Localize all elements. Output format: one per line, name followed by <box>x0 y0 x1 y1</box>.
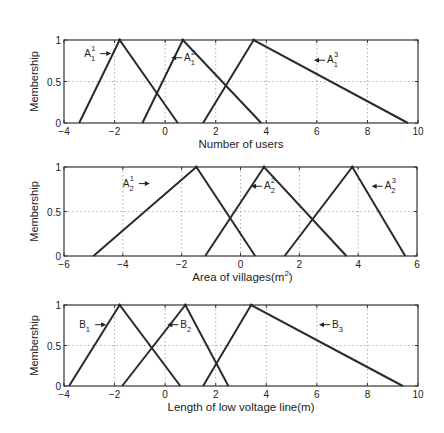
svg-text:4: 4 <box>264 389 270 400</box>
arrow-icon <box>319 322 330 327</box>
svg-text:B3: B3 <box>332 319 343 334</box>
svg-text:6: 6 <box>314 126 320 137</box>
svg-text:0: 0 <box>55 118 61 129</box>
series-label: A13 <box>314 50 338 69</box>
svg-text:4: 4 <box>355 259 361 270</box>
svg-text:−2: −2 <box>109 389 121 400</box>
grid-lines <box>64 305 418 386</box>
svg-text:0: 0 <box>162 389 168 400</box>
svg-text:0: 0 <box>238 259 244 270</box>
series-label: A23 <box>372 176 396 195</box>
svg-text:2: 2 <box>297 259 303 270</box>
svg-text:1: 1 <box>55 35 61 46</box>
x-axis-label: Length of low voltage line(m) <box>167 401 314 413</box>
arrow-icon <box>100 51 111 56</box>
svg-text:0: 0 <box>55 381 61 392</box>
svg-text:0.5: 0.5 <box>47 207 61 218</box>
y-tick-labels: 00.51 <box>47 35 418 129</box>
svg-text:0: 0 <box>162 126 168 137</box>
svg-text:1: 1 <box>55 300 61 311</box>
svg-text:8: 8 <box>365 126 371 137</box>
svg-text:−4: −4 <box>117 259 129 270</box>
subplot-1: −4−2024681000.51Number of usersMembershi… <box>28 35 424 150</box>
membership-curve-a21 <box>93 167 255 256</box>
y-axis-label: Membership <box>28 181 40 242</box>
membership-function-figure: −4−2024681000.51Number of usersMembershi… <box>0 0 444 433</box>
x-tick-labels: −6−4−20246 <box>58 167 420 270</box>
svg-text:2: 2 <box>191 48 195 57</box>
series-label: B3 <box>319 319 343 334</box>
subplot-2: −6−4−2024600.51Area of villages(m2)Membe… <box>28 162 420 283</box>
svg-text:8: 8 <box>365 389 371 400</box>
svg-text:0.5: 0.5 <box>47 77 61 88</box>
arrow-icon <box>314 58 325 63</box>
arrow-icon <box>139 181 150 186</box>
grid-lines <box>64 167 417 256</box>
y-tick-labels: 00.51 <box>47 300 418 392</box>
svg-text:0.5: 0.5 <box>47 341 61 352</box>
svg-text:10: 10 <box>412 126 424 137</box>
svg-text:3: 3 <box>392 176 396 185</box>
svg-text:6: 6 <box>314 389 320 400</box>
series-label: A22 <box>251 176 275 195</box>
svg-text:2: 2 <box>213 126 219 137</box>
svg-text:B1: B1 <box>79 319 90 334</box>
svg-text:−2: −2 <box>109 126 121 137</box>
svg-text:4: 4 <box>264 126 270 137</box>
series-label: A11 <box>84 44 111 63</box>
x-axis-label: Number of users <box>198 138 283 150</box>
svg-text:B2: B2 <box>180 319 191 334</box>
x-axis-label: Area of villages(m2) <box>192 269 293 283</box>
arrow-icon <box>95 322 106 327</box>
svg-text:10: 10 <box>412 389 424 400</box>
arrow-icon <box>372 184 383 189</box>
svg-text:6: 6 <box>414 259 420 270</box>
svg-text:1: 1 <box>91 44 95 53</box>
svg-text:0: 0 <box>55 251 61 262</box>
svg-text:−2: −2 <box>176 259 188 270</box>
series-label: A12 <box>171 48 195 67</box>
y-axis-label: Membership <box>28 51 40 112</box>
y-axis-label: Membership <box>28 315 40 376</box>
subplot-3: −4−2024681000.51Length of low voltage li… <box>28 300 424 413</box>
svg-text:2: 2 <box>271 176 275 185</box>
svg-text:2: 2 <box>213 389 219 400</box>
svg-text:1: 1 <box>130 174 134 183</box>
grid-lines <box>64 40 418 123</box>
series-label: A21 <box>123 174 150 193</box>
chart-canvas: −4−2024681000.51Number of usersMembershi… <box>0 0 444 433</box>
series-label: B2 <box>167 319 191 334</box>
svg-text:1: 1 <box>55 162 61 173</box>
svg-text:3: 3 <box>334 50 338 59</box>
